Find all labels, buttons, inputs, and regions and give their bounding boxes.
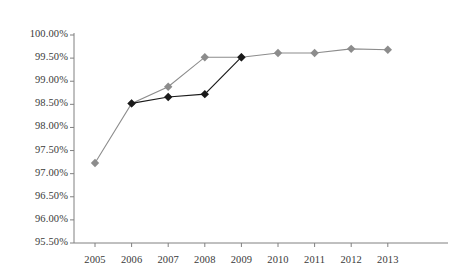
series-line: [95, 49, 388, 163]
data-point-marker: [347, 45, 355, 53]
data-point-marker: [127, 99, 135, 107]
y-axis-tick-label: 95.50%: [4, 236, 68, 247]
plot-area: [0, 0, 454, 271]
y-axis-tick-label: 98.00%: [4, 120, 68, 131]
y-axis-tick-label: 99.50%: [4, 51, 68, 62]
chart-container: 100.00%99.50%99.00%98.50%98.00%97.50%97.…: [0, 0, 454, 271]
data-point-marker: [310, 49, 318, 57]
y-axis-tick-label: 99.00%: [4, 74, 68, 85]
series-2-group: [127, 53, 245, 108]
y-axis-tick-label: 96.00%: [4, 213, 68, 224]
data-point-marker: [384, 46, 392, 54]
y-axis-tick-label: 97.00%: [4, 167, 68, 178]
y-axis-tick-label: 96.50%: [4, 190, 68, 201]
y-axis-tick-label: 100.00%: [4, 28, 68, 39]
data-point-marker: [91, 159, 99, 167]
data-point-marker: [274, 49, 282, 57]
data-point-marker: [164, 93, 172, 101]
y-axis-tick-label: 98.50%: [4, 97, 68, 108]
x-axis-tick-label: 2013: [364, 254, 412, 265]
series-1-group: [91, 45, 392, 168]
y-axis-tick-label: 97.50%: [4, 144, 68, 155]
